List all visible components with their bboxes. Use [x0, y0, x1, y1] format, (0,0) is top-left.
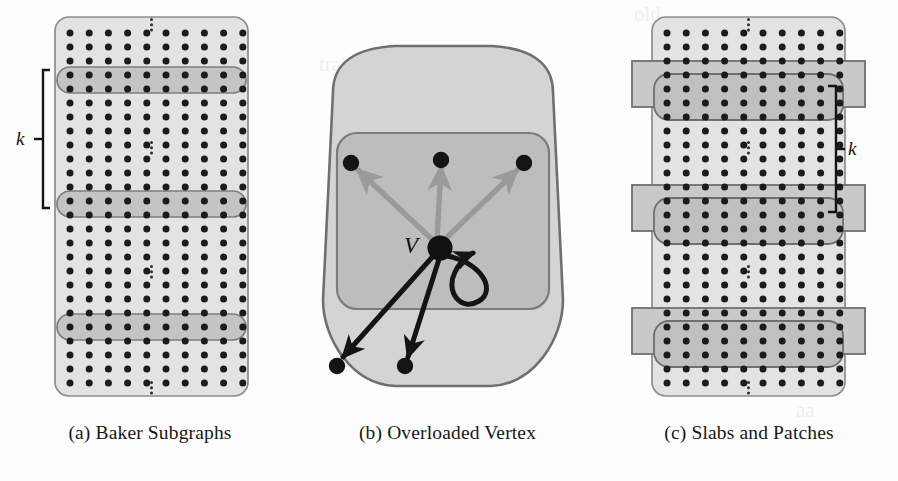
lattice-dot [836, 44, 843, 51]
lattice-dot [67, 380, 74, 387]
panel-c-graphic [600, 0, 898, 415]
ellipsis-dot [747, 265, 750, 268]
lattice-dot [740, 156, 747, 163]
lattice-dot [86, 240, 93, 247]
lattice-dot [124, 226, 131, 233]
lattice-dot [702, 338, 709, 345]
lattice-dot [836, 198, 843, 205]
lattice-dot [664, 268, 671, 275]
ellipsis-dot [150, 265, 153, 268]
lattice-dot [86, 324, 93, 331]
lattice-dot [683, 170, 690, 177]
lattice-dot [201, 44, 208, 51]
panel-b-graphic [295, 0, 600, 415]
lattice-dot [740, 72, 747, 79]
lattice-dot [143, 282, 150, 289]
baker-band [57, 314, 246, 340]
lattice-dot [239, 310, 246, 317]
lattice-dot [67, 72, 74, 79]
lattice-dot [664, 324, 671, 331]
lattice-dot [836, 366, 843, 373]
lattice-dot [817, 58, 824, 65]
lattice-dot [201, 86, 208, 93]
lattice-dot [163, 226, 170, 233]
lattice-dot [182, 30, 189, 37]
lattice-dot [220, 100, 227, 107]
lattice-dot [702, 324, 709, 331]
lattice-dot [817, 86, 824, 93]
lattice-dot [143, 100, 150, 107]
lattice-dot [163, 338, 170, 345]
lattice-dot [182, 156, 189, 163]
lattice-dot [67, 324, 74, 331]
lattice-dot [740, 198, 747, 205]
lattice-dot [702, 72, 709, 79]
ellipsis-dot [747, 146, 750, 149]
lattice-dot [67, 352, 74, 359]
lattice-dot [201, 338, 208, 345]
lattice-dot [664, 212, 671, 219]
lattice-dot [836, 156, 843, 163]
lattice-dot [721, 352, 728, 359]
lattice-dot [124, 114, 131, 121]
lattice-dot [760, 380, 767, 387]
lattice-dot [817, 338, 824, 345]
lattice-dot [239, 240, 246, 247]
lattice-dot [86, 142, 93, 149]
lattice-dot [143, 156, 150, 163]
lattice-dot [124, 310, 131, 317]
lattice-dot [143, 296, 150, 303]
lattice-dot [664, 254, 671, 261]
lattice-dot [182, 44, 189, 51]
lattice-dot [182, 380, 189, 387]
lattice-dot [239, 268, 246, 275]
lattice-dot [163, 240, 170, 247]
lattice-dot [163, 268, 170, 275]
overloaded-vertex [427, 235, 452, 260]
caption-panel-b: (b) Overloaded Vertex [295, 422, 600, 444]
panel-overloaded-vertex: trailing of a dim an effort of the mirro… [295, 0, 600, 481]
lattice-dot [779, 44, 786, 51]
lattice-dot [124, 268, 131, 275]
lattice-dot [220, 212, 227, 219]
caption-panel-a: (a) Baker Subgraphs [0, 422, 300, 444]
lattice-dot [817, 184, 824, 191]
lattice-dot [740, 282, 747, 289]
lattice-dot [760, 30, 767, 37]
lattice-dot [67, 142, 74, 149]
lattice-dot [683, 310, 690, 317]
lattice-dot [201, 58, 208, 65]
lattice-dot [239, 296, 246, 303]
lattice-dot [67, 226, 74, 233]
lattice-dot [67, 86, 74, 93]
lattice-dot [182, 282, 189, 289]
lattice-dot [182, 198, 189, 205]
lattice-dot [683, 268, 690, 275]
lattice-dot [86, 86, 93, 93]
lattice-dot [220, 324, 227, 331]
lattice-dot [201, 100, 208, 107]
lattice-dot [779, 30, 786, 37]
lattice-dot [817, 254, 824, 261]
lattice-dot [664, 184, 671, 191]
lattice-dot [760, 310, 767, 317]
lattice-dot [760, 114, 767, 121]
lattice-dot [67, 184, 74, 191]
lattice-dot [143, 142, 150, 149]
lattice-dot [105, 366, 112, 373]
lattice-dot [760, 254, 767, 261]
lattice-dot [239, 128, 246, 135]
lattice-dot [239, 338, 246, 345]
lattice-dot [664, 198, 671, 205]
lattice-dot [86, 310, 93, 317]
lattice-dot [740, 324, 747, 331]
lattice-dot [779, 310, 786, 317]
lattice-dot [124, 324, 131, 331]
lattice-dot [836, 100, 843, 107]
lattice-dot [163, 296, 170, 303]
lattice-dot [702, 240, 709, 247]
k-label-panel-c: k [848, 138, 856, 160]
ellipsis-dot [150, 391, 153, 394]
lattice-dot [220, 352, 227, 359]
lattice-dot [239, 366, 246, 373]
